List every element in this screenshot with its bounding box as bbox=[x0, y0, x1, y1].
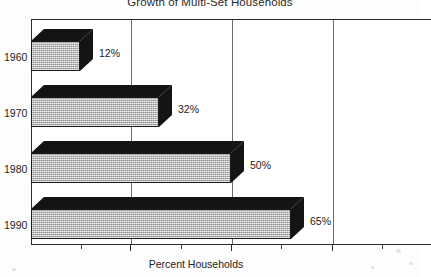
gridline-75 bbox=[333, 20, 334, 244]
bar-1970-value-label: 32% bbox=[178, 103, 199, 115]
x-tick-minor-2 bbox=[181, 245, 182, 249]
x-tick-major-50 bbox=[231, 245, 232, 251]
scan-speck bbox=[409, 262, 413, 265]
bar-1980-front-face bbox=[31, 153, 231, 183]
bar-1970-top-face bbox=[31, 85, 172, 97]
scan-speck bbox=[371, 266, 374, 269]
bar-1990-front-face bbox=[31, 209, 291, 239]
chart-title: Growth of Multi-Set Households bbox=[0, 0, 420, 8]
x-tick-minor-1 bbox=[81, 245, 82, 249]
scan-speck bbox=[396, 249, 401, 253]
bar-1960-front-face bbox=[31, 41, 80, 71]
bar-1990-top-face bbox=[31, 197, 304, 209]
bar-1990-value-label: 65% bbox=[310, 215, 331, 227]
bar-1980-top-face bbox=[31, 141, 244, 153]
scan-speck bbox=[12, 268, 16, 271]
x-tick-major-75 bbox=[332, 245, 333, 251]
x-tick-major-25 bbox=[130, 245, 131, 251]
bar-1980-value-label: 50% bbox=[250, 159, 271, 171]
x-tick-minor-4 bbox=[382, 245, 383, 249]
bar-1960-value-label: 12% bbox=[99, 47, 120, 59]
bar-1970-front-face bbox=[31, 97, 159, 127]
x-tick-minor-3 bbox=[281, 245, 282, 249]
x-axis-label: Percent Households bbox=[31, 258, 361, 270]
